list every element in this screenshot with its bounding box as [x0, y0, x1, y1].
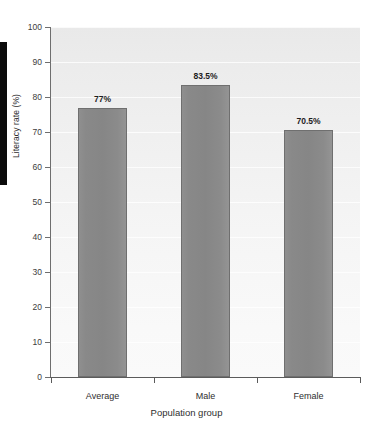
y-axis-tick-label: 20	[33, 303, 42, 312]
x-axis-category-label-average: Average	[86, 391, 119, 401]
y-axis-tick-label: 30	[33, 268, 42, 277]
x-axis-title: Population group	[0, 407, 373, 418]
x-axis-category-label-female: Female	[293, 391, 323, 401]
bar-male	[181, 85, 230, 377]
bar-female	[284, 130, 333, 377]
bar-value-label-average: 77%	[94, 94, 111, 104]
y-axis-tick	[45, 27, 50, 28]
y-axis-tick-label: 40	[33, 233, 42, 242]
x-axis-tick	[51, 378, 52, 383]
y-axis-tick	[45, 237, 50, 238]
y-axis-tick-label: 80	[33, 93, 42, 102]
y-axis-tick	[45, 272, 50, 273]
gridline	[51, 62, 360, 63]
y-axis-tick	[45, 97, 50, 98]
x-axis-line	[50, 377, 361, 378]
y-axis-title: Literacy rate (%)	[11, 94, 21, 158]
x-axis-tick	[154, 378, 155, 383]
y-axis-line	[50, 27, 51, 378]
y-axis-tick-label: 50	[33, 198, 42, 207]
bar-value-label-female: 70.5%	[296, 116, 320, 126]
bar-value-label-male: 83.5%	[193, 71, 217, 81]
y-axis-tick	[45, 202, 50, 203]
bar-average	[78, 108, 127, 378]
y-axis-tick	[45, 62, 50, 63]
y-axis-tick-label: 70	[33, 128, 42, 137]
x-axis-tick	[360, 378, 361, 383]
x-axis-category-label-male: Male	[196, 391, 216, 401]
y-axis-tick-label: 0	[37, 373, 42, 382]
page-edge-black-bar	[0, 42, 7, 185]
y-axis-tick	[45, 342, 50, 343]
y-axis-tick	[45, 167, 50, 168]
x-axis-tick	[257, 378, 258, 383]
y-axis-tick-label: 10	[33, 338, 42, 347]
y-axis-tick-label: 90	[33, 58, 42, 67]
y-axis-tick-label: 100	[28, 23, 42, 32]
gridline	[51, 27, 360, 28]
y-axis-tick-label: 60	[33, 163, 42, 172]
bar-chart-figure: 0102030405060708090100 AverageMaleFemale…	[0, 0, 373, 439]
y-axis-tick	[45, 132, 50, 133]
y-axis-tick	[45, 307, 50, 308]
y-axis-tick	[45, 377, 50, 378]
